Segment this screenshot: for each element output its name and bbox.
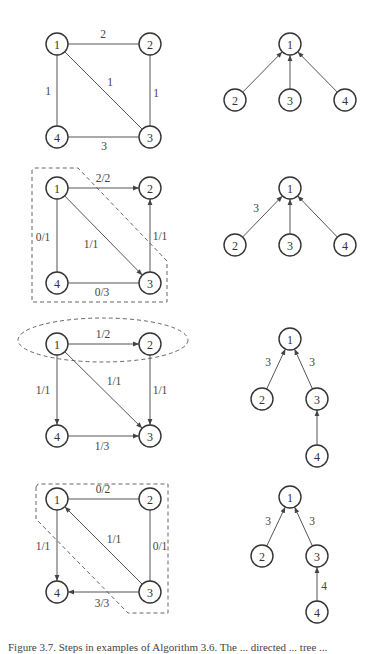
- svg-text:2: 2: [259, 393, 265, 407]
- edge-label-1-4: 1/1: [36, 540, 51, 552]
- svg-text:2: 2: [147, 338, 153, 352]
- tree-edge-label-3-1: 3: [309, 356, 315, 368]
- edge-label-3-4: 3/3: [95, 597, 110, 609]
- svg-text:3: 3: [147, 131, 153, 145]
- tree-edge-label-2-1: 3: [253, 202, 259, 214]
- graph-node-4: 4: [46, 581, 68, 603]
- tree-edge-2-1: [243, 52, 283, 92]
- svg-text:4: 4: [54, 430, 60, 444]
- edge-label-2-3: 0/1: [153, 540, 168, 552]
- svg-text:4: 4: [54, 131, 60, 145]
- tree-node-3: 3: [279, 234, 301, 256]
- svg-text:3: 3: [314, 393, 320, 407]
- tree-node-4: 4: [334, 89, 356, 111]
- edge-label-1-4: 1: [45, 85, 51, 97]
- svg-text:4: 4: [54, 277, 60, 291]
- edge-1-3: [65, 52, 142, 129]
- svg-text:2: 2: [232, 94, 238, 108]
- tree-edge-label-2-1: 3: [265, 356, 271, 368]
- panel-step3: 0/21/11/10/13/312343341234: [36, 483, 328, 623]
- gomory-hu-tree: 331234: [251, 328, 328, 467]
- svg-text:1: 1: [54, 182, 60, 196]
- edge-label-4-3: 3: [101, 140, 107, 152]
- flow-network: 0/21/11/10/13/31234: [36, 483, 168, 613]
- edge-label-1-2: 1/2: [96, 328, 111, 340]
- svg-text:1: 1: [287, 182, 293, 196]
- svg-text:4: 4: [54, 586, 60, 600]
- panel-step2: 1/21/11/11/11/31234331234: [18, 318, 328, 467]
- graph-node-2: 2: [139, 177, 161, 199]
- panel-step1: 2/20/11/11/10/3123431234: [32, 168, 356, 302]
- flow-network: 1/21/11/11/11/31234: [18, 318, 188, 452]
- tree-node-2: 2: [251, 388, 273, 410]
- svg-text:2: 2: [147, 182, 153, 196]
- svg-text:2: 2: [147, 493, 153, 507]
- tree-edge-label-2-1: 3: [265, 515, 271, 527]
- svg-text:3: 3: [314, 550, 320, 564]
- tree-node-1: 1: [279, 33, 301, 55]
- svg-text:3: 3: [287, 94, 293, 108]
- svg-text:1: 1: [287, 333, 293, 347]
- tree-edge-4-1: [298, 196, 338, 237]
- gomory-hu-tree: 3341234: [251, 486, 328, 623]
- edge-label-1-2: 2: [100, 28, 106, 40]
- edge-label-2-3: 1/1: [153, 384, 168, 396]
- svg-text:4: 4: [342, 94, 348, 108]
- edge-label-1-2: 0/2: [96, 483, 111, 495]
- graph-node-1: 1: [46, 33, 68, 55]
- tree-node-1: 1: [279, 177, 301, 199]
- svg-text:1: 1: [54, 338, 60, 352]
- graph-node-1: 1: [46, 177, 68, 199]
- svg-text:4: 4: [342, 239, 348, 253]
- svg-text:1: 1: [287, 38, 293, 52]
- edge-1-3: [65, 352, 142, 429]
- graph-node-1: 1: [46, 333, 68, 355]
- gomory-hu-tree: 1234: [224, 33, 356, 111]
- svg-text:3: 3: [147, 586, 153, 600]
- edge-label-1-4: 1/1: [36, 384, 51, 396]
- svg-text:2: 2: [259, 550, 265, 564]
- svg-text:1: 1: [54, 493, 60, 507]
- svg-text:3: 3: [147, 277, 153, 291]
- graph-node-1: 1: [46, 488, 68, 510]
- edge-1-3: [65, 196, 143, 275]
- edge-label-1-3: 1: [107, 76, 113, 88]
- graph-node-4: 4: [46, 272, 68, 294]
- cut-boundary: [18, 318, 188, 362]
- graph-node-3: 3: [139, 272, 161, 294]
- edge-label-4-1: 0/1: [36, 231, 51, 243]
- tree-node-1: 1: [279, 486, 301, 508]
- svg-text:3: 3: [147, 430, 153, 444]
- figure-caption: Figure 3.7. Steps in examples of Algorit…: [8, 641, 373, 653]
- tree-node-3: 3: [306, 388, 328, 410]
- svg-text:1: 1: [54, 38, 60, 52]
- graph-node-3: 3: [139, 126, 161, 148]
- tree-node-2: 2: [251, 545, 273, 567]
- graph-node-4: 4: [46, 425, 68, 447]
- tree-node-4: 4: [334, 234, 356, 256]
- panel-step0: 2111312341234: [45, 28, 356, 152]
- tree-edge-2-1: [267, 349, 286, 389]
- svg-text:2: 2: [232, 239, 238, 253]
- edge-label-4-3: 0/3: [95, 286, 110, 298]
- tree-edge-label-3-1: 3: [309, 515, 315, 527]
- edge-label-1-3: 1/1: [107, 375, 122, 387]
- graph-node-4: 4: [46, 126, 68, 148]
- edge-3-1: [65, 507, 142, 584]
- tree-node-2: 2: [224, 234, 246, 256]
- tree-node-3: 3: [306, 545, 328, 567]
- edge-label-1-3: 1/1: [84, 238, 99, 250]
- graph-node-2: 2: [139, 488, 161, 510]
- svg-text:4: 4: [314, 606, 320, 620]
- edge-label-2-3: 1: [153, 87, 159, 99]
- graph-node-2: 2: [139, 333, 161, 355]
- gomory-hu-tree: 31234: [224, 177, 356, 256]
- svg-text:4: 4: [314, 450, 320, 464]
- edge-label-3-1: 1/1: [107, 533, 122, 545]
- graph-node-3: 3: [139, 425, 161, 447]
- tree-edge-2-1: [243, 196, 283, 237]
- edge-label-1-2: 2/2: [96, 172, 111, 184]
- flow-network: 211131234: [45, 28, 161, 152]
- tree-node-3: 3: [279, 89, 301, 111]
- tree-edge-4-1: [298, 52, 338, 92]
